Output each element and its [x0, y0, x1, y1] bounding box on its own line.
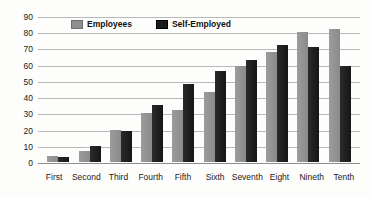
- legend-label-employees: Employees: [87, 20, 132, 29]
- bar-employees-eight: [266, 52, 277, 162]
- y-tick-label: 70: [0, 45, 33, 54]
- y-tick-label: 80: [0, 29, 33, 38]
- category-label-third: Third: [102, 172, 134, 182]
- bar-self-employed-first: [58, 157, 69, 162]
- y-tick-label: 0: [0, 159, 33, 168]
- y-tick-label: 30: [0, 110, 33, 119]
- bar-group-tenth: [329, 17, 351, 162]
- plot-area: [38, 17, 360, 163]
- legend-item-self-employed: Self-Employed: [156, 20, 231, 29]
- legend-label-self-employed: Self-Employed: [172, 20, 231, 29]
- category-label-second: Second: [70, 172, 102, 182]
- bar-group-nineth: [297, 17, 319, 162]
- bar-self-employed-fifth: [183, 84, 194, 162]
- y-tick-label: 40: [0, 94, 33, 103]
- employees-swatch-icon: [71, 20, 83, 29]
- bar-employees-sixth: [204, 92, 215, 162]
- category-label-nineth: Nineth: [296, 172, 328, 182]
- bar-group-eight: [266, 17, 288, 162]
- bar-group-third: [110, 17, 132, 162]
- category-label-first: First: [38, 172, 70, 182]
- bar-group-fifth: [172, 17, 194, 162]
- bar-group-sixth: [204, 17, 226, 162]
- y-tick-label: 20: [0, 126, 33, 135]
- bar-employees-seventh: [235, 66, 246, 162]
- bar-employees-first: [47, 156, 58, 162]
- bar-self-employed-seventh: [246, 60, 257, 162]
- y-tick-label: 90: [0, 13, 33, 22]
- category-label-seventh: Seventh: [231, 172, 263, 182]
- bar-group-second: [79, 17, 101, 162]
- bar-chart: 9080706050403020100 Employees Self-Emplo…: [0, 0, 372, 197]
- y-axis: 9080706050403020100: [0, 17, 33, 163]
- category-label-tenth: Tenth: [328, 172, 360, 182]
- y-tick-label: 10: [0, 143, 33, 152]
- bar-group-seventh: [235, 17, 257, 162]
- category-label-eight: Eight: [263, 172, 295, 182]
- bar-employees-third: [110, 130, 121, 162]
- bar-self-employed-eight: [277, 45, 288, 162]
- bar-self-employed-sixth: [215, 71, 226, 162]
- legend-item-employees: Employees: [71, 20, 132, 29]
- category-label-fifth: Fifth: [167, 172, 199, 182]
- x-axis: FirstSecondThirdFourthFifthSixthSeventhE…: [38, 172, 360, 182]
- bar-group-fourth: [141, 17, 163, 162]
- y-tick-label: 50: [0, 78, 33, 87]
- category-label-fourth: Fourth: [135, 172, 167, 182]
- y-tick-label: 60: [0, 61, 33, 70]
- bar-series: [38, 17, 360, 162]
- bar-self-employed-fourth: [152, 105, 163, 162]
- bar-employees-tenth: [329, 29, 340, 162]
- bar-self-employed-second: [90, 146, 101, 162]
- legend: Employees Self-Employed: [71, 20, 231, 29]
- category-label-sixth: Sixth: [199, 172, 231, 182]
- bar-group-first: [47, 17, 69, 162]
- bar-employees-nineth: [297, 32, 308, 162]
- bar-employees-second: [79, 151, 90, 162]
- bar-self-employed-nineth: [308, 47, 319, 162]
- bar-self-employed-tenth: [340, 66, 351, 162]
- bar-employees-fourth: [141, 113, 152, 162]
- self-employed-swatch-icon: [156, 20, 168, 29]
- bar-employees-fifth: [172, 110, 183, 162]
- gridline-0: [38, 163, 360, 164]
- bar-self-employed-third: [121, 131, 132, 162]
